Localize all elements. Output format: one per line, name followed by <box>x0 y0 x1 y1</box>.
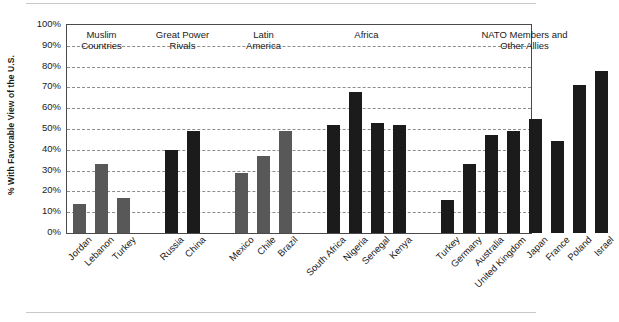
bar-nigeria <box>349 92 362 233</box>
bar-south-africa <box>327 125 340 233</box>
group-header: Africa <box>313 29 420 40</box>
y-axis-tick: 50% <box>42 123 61 133</box>
bar-poland <box>573 85 586 233</box>
bar-brazil <box>279 131 292 233</box>
y-axis-title-text: % With Favorable View of the U.S. <box>6 55 16 195</box>
bar-jordan <box>73 204 86 233</box>
gridline <box>67 171 531 172</box>
y-axis-tick: 10% <box>42 206 61 216</box>
y-axis-tick: 80% <box>42 61 61 71</box>
group-header: Muslim Countries <box>59 29 144 51</box>
bar-turkey <box>441 200 454 233</box>
gridline <box>67 108 531 109</box>
plot-area: Muslim CountriesGreat Power RivalsLatin … <box>66 24 532 234</box>
y-axis-tick: 40% <box>42 144 61 154</box>
y-axis-tick: 60% <box>42 102 61 112</box>
bar-mexico <box>235 173 248 233</box>
gridline <box>67 67 531 68</box>
y-axis-title: % With Favorable View of the U.S. <box>2 0 20 250</box>
y-axis-tick: 70% <box>42 81 61 91</box>
x-axis-category-labels: JordanLebanonTurkeyRussiaChinaMexicoChil… <box>66 234 532 320</box>
bar-russia <box>165 150 178 233</box>
gridline <box>67 129 531 130</box>
group-header: Latin America <box>221 29 306 51</box>
y-axis-tick: 30% <box>42 165 61 175</box>
y-axis-tick: 0% <box>47 227 61 237</box>
y-axis-tick: 100% <box>37 19 61 29</box>
bar-israel <box>595 71 608 233</box>
group-header: NATO Members and Other Allies <box>427 29 619 51</box>
gridline <box>67 87 531 88</box>
y-axis-tick-labels: 100%90%80%70%60%50%40%30%20%10%0% <box>22 0 64 250</box>
group-header: Great Power Rivals <box>151 29 214 51</box>
gridline <box>67 150 531 151</box>
page-rule-top <box>26 3 536 4</box>
gridline <box>67 191 531 192</box>
y-axis-tick: 20% <box>42 185 61 195</box>
